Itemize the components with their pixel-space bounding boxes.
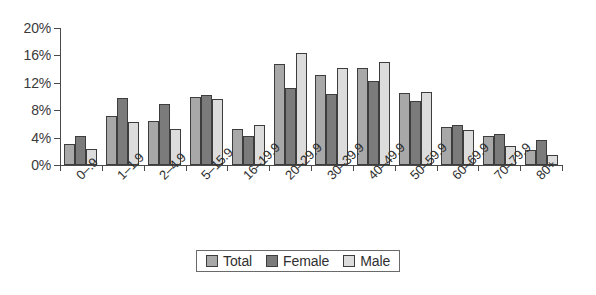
x-axis-tick [478, 165, 479, 171]
y-axis-tick-label: 0% [31, 157, 51, 173]
bar-female [201, 95, 212, 165]
x-axis-tick [562, 165, 563, 171]
y-axis-tick-label: 4% [31, 130, 51, 146]
x-axis-tick [102, 165, 103, 171]
bar-female [368, 81, 379, 165]
legend-item-male[interactable]: Male [343, 253, 390, 269]
legend-item-female[interactable]: Female [266, 253, 329, 269]
bar-female [159, 104, 170, 165]
legend-swatch-icon [206, 255, 218, 267]
x-axis-tick [395, 165, 396, 171]
bar-female [410, 101, 421, 165]
legend-swatch-icon [266, 255, 278, 267]
x-axis-category-labels: 0–.91–1.92–4.95–15.916–19.920–29.930–39.… [60, 172, 563, 242]
bar-group [102, 28, 144, 165]
x-axis-tick [60, 165, 61, 171]
legend-label: Total [223, 253, 252, 269]
bar-group [186, 28, 228, 165]
bar-female [117, 98, 128, 165]
bar-total [148, 121, 159, 165]
x-axis-tick [227, 165, 228, 171]
y-axis-tick [54, 83, 60, 84]
x-axis-tick [437, 165, 438, 171]
legend-swatch-icon [343, 255, 355, 267]
legend-label: Male [360, 253, 390, 269]
bar-female [326, 94, 337, 165]
legend-label: Female [283, 253, 329, 269]
y-axis-tick-label: 20% [24, 20, 51, 36]
y-axis-tick-label: 16% [24, 47, 51, 63]
bar-chart: 0%4%8%12%16%20% 0–.91–1.92–4.95–15.916–1… [0, 0, 596, 295]
bar-group [227, 28, 269, 165]
y-axis-line [60, 28, 61, 166]
x-axis-tick [186, 165, 187, 171]
bar-female [285, 88, 296, 165]
x-axis-tick [353, 165, 354, 171]
bar-total [106, 116, 117, 165]
bar-total [232, 129, 243, 165]
y-axis-tick-label: 8% [31, 102, 51, 118]
y-axis-tick [54, 110, 60, 111]
bar-total [190, 97, 201, 166]
y-axis-tick [54, 28, 60, 29]
x-axis-tick [311, 165, 312, 171]
chart-legend: TotalFemaleMale [196, 250, 400, 272]
bar-group [60, 28, 102, 165]
y-axis-tick-label: 12% [24, 75, 51, 91]
bar-group [144, 28, 186, 165]
x-axis-tick [269, 165, 270, 171]
x-axis-tick [520, 165, 521, 171]
y-axis-tick [54, 55, 60, 56]
y-axis-tick [54, 138, 60, 139]
legend-item-total[interactable]: Total [206, 253, 252, 269]
bar-total [64, 144, 75, 165]
x-axis-tick [144, 165, 145, 171]
